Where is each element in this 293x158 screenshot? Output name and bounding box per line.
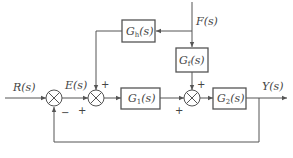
sum2-plus-sign-top: + bbox=[101, 79, 109, 90]
block-g2-label: G2(s) bbox=[217, 92, 245, 106]
block-g1-label: G1(s) bbox=[128, 92, 156, 106]
error-label: E(s) bbox=[64, 79, 87, 92]
input-label: R(s) bbox=[12, 81, 36, 94]
block-diagram: R(s) − E(s) + + G1(s) + + G2(s) Y(s) F(s… bbox=[0, 0, 293, 158]
disturbance-label: F(s) bbox=[195, 15, 218, 28]
summing-junction-3 bbox=[184, 90, 200, 106]
block-gh-label: Gh(s) bbox=[126, 25, 154, 39]
sum3-plus-sign-left: + bbox=[175, 105, 183, 116]
sum3-plus-sign-top: + bbox=[197, 79, 205, 90]
sum2-plus-sign-left: + bbox=[78, 105, 86, 116]
summing-junction-2 bbox=[88, 90, 104, 106]
output-label: Y(s) bbox=[262, 80, 284, 93]
sum1-minus-sign: − bbox=[61, 107, 69, 118]
block-gf-label: Gf(s) bbox=[179, 54, 205, 68]
summing-junction-1 bbox=[46, 90, 62, 106]
